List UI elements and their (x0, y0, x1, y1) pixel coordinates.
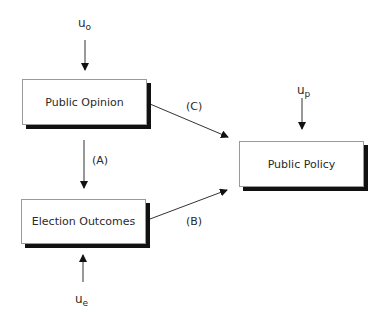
node-label: Public Policy (268, 158, 336, 171)
node-public-policy: Public Policy (239, 141, 364, 187)
node-public-opinion: Public Opinion (22, 79, 147, 125)
edge-label-a: (A) (92, 154, 108, 167)
node-label: Election Outcomes (32, 215, 135, 228)
edge-label-b: (B) (186, 215, 202, 228)
node-election-outcomes: Election Outcomes (21, 199, 146, 244)
error-term-up: up (297, 83, 310, 99)
node-label: Public Opinion (45, 96, 123, 109)
error-term-ue: ue (75, 292, 88, 308)
edge-label-c: (C) (186, 100, 202, 113)
error-term-uo: uo (78, 16, 91, 32)
